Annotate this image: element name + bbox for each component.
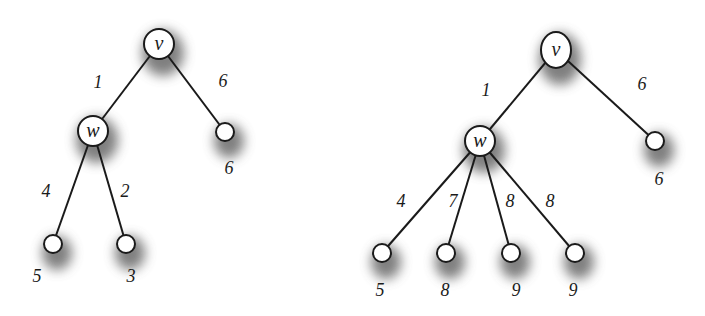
leaf-value-label: 9	[512, 280, 521, 300]
edge-weight-label: 7	[449, 191, 459, 211]
tree-diagram-canvas: 1642vw653 164788vw65899	[0, 0, 705, 316]
leaf-value-label: 6	[225, 158, 234, 178]
edge-weight-label: 6	[219, 71, 228, 91]
edge-weight-label: 8	[506, 191, 515, 211]
leaf-value-label: 6	[655, 169, 664, 189]
leaf-node	[566, 244, 584, 262]
node-label-w: w	[86, 119, 100, 141]
edge-v-r	[159, 44, 225, 132]
leaf-value-label: 9	[569, 280, 578, 300]
edge-v-w	[93, 44, 159, 131]
right-tree: 164788vw65899	[371, 32, 674, 300]
edge-v-r	[556, 50, 655, 141]
leaf-value-label: 5	[376, 280, 385, 300]
node-label-v: v	[155, 32, 164, 54]
leaf-node	[437, 244, 455, 262]
edge-w-a	[53, 131, 93, 244]
leaf-node	[117, 235, 135, 253]
leaf-value-label: 5	[33, 266, 42, 286]
leaf-value-label: 3	[126, 266, 136, 286]
edge-weight-label: 1	[94, 72, 103, 92]
left-tree: 1642vw653	[33, 29, 245, 286]
leaf-value-label: 8	[441, 280, 450, 300]
edge-w-d	[480, 141, 575, 253]
leaf-node	[44, 235, 62, 253]
edge-weight-label: 1	[482, 80, 491, 100]
leaf-node	[646, 132, 664, 150]
edge-weight-label: 4	[42, 181, 51, 201]
leaf-node	[373, 244, 391, 262]
node-label-w: w	[473, 129, 487, 151]
leaf-node	[502, 244, 520, 262]
edge-weight-label: 6	[638, 74, 647, 94]
edge-weight-label: 8	[546, 191, 555, 211]
edge-weight-label: 2	[121, 181, 130, 201]
edge-weight-label: 4	[397, 191, 406, 211]
edge-v-w	[480, 50, 556, 141]
leaf-node	[216, 123, 234, 141]
node-label-v: v	[552, 38, 561, 60]
